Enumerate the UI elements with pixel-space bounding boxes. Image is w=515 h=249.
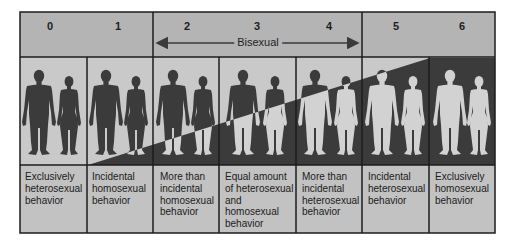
rating-6-label: 6 bbox=[459, 20, 465, 32]
header-band bbox=[20, 12, 495, 57]
rating-1-label: 1 bbox=[115, 20, 121, 32]
rating-3-label: 3 bbox=[254, 20, 260, 32]
rating-0-label: 0 bbox=[47, 20, 53, 32]
rating-3-description: Equal amount of heterosexual and homosex… bbox=[225, 171, 293, 230]
bisexual-label: Bisexual bbox=[234, 36, 282, 49]
rating-6-description: Exclusively homosexual behavior bbox=[435, 171, 489, 206]
rating-1-description: Incidental homosexual behavior bbox=[92, 171, 146, 206]
rating-4-description: More than incidental heterosexual behavi… bbox=[302, 171, 359, 218]
rating-4-label: 4 bbox=[326, 20, 332, 32]
rating-5-label: 5 bbox=[393, 20, 399, 32]
rating-2-description: More than incidental homosexual behavior bbox=[160, 171, 214, 218]
rating-0-description: Exclusively heterosexual behavior bbox=[25, 171, 82, 206]
rating-2-label: 2 bbox=[184, 20, 190, 32]
kinsey-scale-diagram: 0 1 2 3 4 5 6 Bisexual Exclusively heter… bbox=[0, 0, 515, 249]
rating-5-description: Incidental heterosexual behavior bbox=[368, 171, 425, 206]
